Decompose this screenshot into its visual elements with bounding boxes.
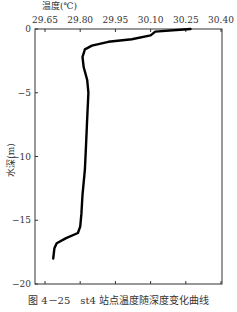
temperature-curve	[53, 29, 190, 259]
x-tick-label: 29.65	[32, 15, 58, 25]
plot-frame	[35, 29, 222, 284]
y-tick-label: −20	[12, 279, 31, 289]
y-axis-label: 水深(m)	[5, 143, 16, 177]
x-tick-label: 30.10	[138, 15, 164, 25]
x-tick-label: 30.40	[208, 15, 234, 25]
x-axis-ticks: 29.6529.8029.9530.1030.2530.40	[32, 15, 234, 284]
temperature-depth-chart: 温度(℃) 29.6529.8029.9530.1030.2530.40 0−5…	[0, 0, 237, 290]
y-tick-label: −15	[12, 215, 31, 225]
figure-caption: 图 4－25 st4 站点温度随深度变化曲线	[0, 292, 237, 307]
y-tick-label: 0	[25, 24, 31, 34]
x-tick-label: 29.95	[103, 15, 129, 25]
x-axis-label: 温度(℃)	[42, 0, 77, 11]
x-tick-label: 30.25	[173, 15, 199, 25]
x-tick-label: 29.80	[67, 15, 93, 25]
y-tick-label: −5	[18, 88, 32, 98]
